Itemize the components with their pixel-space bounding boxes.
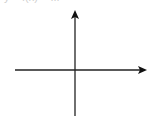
x-axis: [15, 66, 147, 74]
coordinate-axes: [0, 0, 149, 120]
y-axis: [71, 10, 79, 116]
